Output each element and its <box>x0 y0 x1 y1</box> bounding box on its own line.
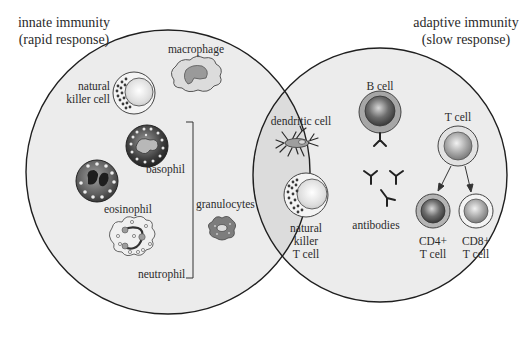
nk-label-line1: natural <box>50 80 110 93</box>
eosinophil-icon <box>76 160 118 202</box>
natural-killer-t-cell-icon <box>284 173 328 217</box>
innate-title: innate immunity (rapid response) <box>12 14 116 48</box>
nkt-label-line2: killer <box>280 235 332 248</box>
adaptive-title: adaptive immunity (slow response) <box>412 14 520 48</box>
basophil-icon <box>126 125 168 167</box>
basophil-label: basophil <box>146 163 185 176</box>
innate-title-text: innate immunity <box>12 14 116 31</box>
cd4-t-cell-icon <box>416 194 450 228</box>
adaptive-subtitle-text: (slow response) <box>412 31 520 48</box>
cd8-label-line2: T cell <box>451 248 501 261</box>
t-cell-icon <box>438 126 478 166</box>
granulocytes-label: granulocytes <box>196 198 255 211</box>
immunity-venn-diagram <box>0 0 526 337</box>
nkt-cell-label: natural killer T cell <box>280 222 332 261</box>
neutrophil-icon <box>109 216 155 255</box>
nkt-label-line3: T cell <box>280 248 332 261</box>
innate-subtitle-text: (rapid response) <box>12 31 116 48</box>
adaptive-title-text: adaptive immunity <box>412 14 520 31</box>
cd8-t-cell-label: CD8+ T cell <box>451 235 501 261</box>
dendritic-cell-label: dendritic cell <box>268 115 334 128</box>
nkt-label-line1: natural <box>280 222 332 235</box>
macrophage-label: macrophage <box>160 43 232 56</box>
t-cell-label: T cell <box>438 111 478 124</box>
antibodies-label: antibodies <box>346 219 406 232</box>
cd8-t-cell-icon <box>459 194 493 228</box>
eosinophil-label: eosinophil <box>104 203 152 216</box>
cd8-label-line1: CD8+ <box>451 235 501 248</box>
nk-cell-label: natural killer cell <box>50 80 110 106</box>
neutrophil-label: neutrophil <box>138 268 185 281</box>
b-cell-label: B cell <box>358 80 402 93</box>
macrophage-icon <box>171 56 221 91</box>
nk-label-line2: killer cell <box>50 93 110 106</box>
natural-killer-cell-icon <box>113 72 155 114</box>
